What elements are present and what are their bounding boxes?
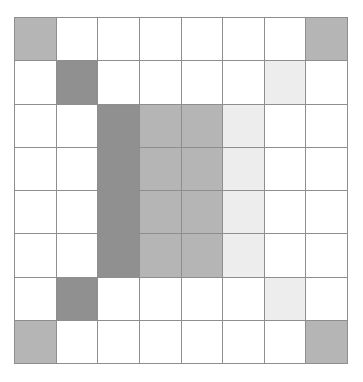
heatmap-cell [98,105,139,147]
heatmap-cell [182,321,223,363]
heatmap-cell [57,18,98,60]
heatmap-cell [265,278,306,320]
heatmap-cell [223,61,264,103]
heatmap-cell [182,191,223,233]
heatmap-cell [265,18,306,60]
heatmap-cell [98,61,139,103]
heatmap-cell [15,61,56,103]
heatmap-cell [265,191,306,233]
heatmap-cell [15,148,56,190]
heatmap-cell [306,61,347,103]
heatmap-cell [265,61,306,103]
heatmap-cell [306,234,347,276]
heatmap-cell [306,18,347,60]
heatmap-cell [306,148,347,190]
heatmap-grid [14,17,348,364]
heatmap-cell [98,191,139,233]
heatmap-cell [57,148,98,190]
heatmap-cell [306,191,347,233]
heatmap-cell [223,18,264,60]
heatmap-cell [57,234,98,276]
heatmap-cell [57,61,98,103]
heatmap-cell [182,105,223,147]
heatmap-cell [223,278,264,320]
heatmap-cell [182,61,223,103]
heatmap-cell [140,278,181,320]
heatmap-cell [57,105,98,147]
heatmap-cell [265,234,306,276]
heatmap-cell [265,148,306,190]
heatmap-cell [265,105,306,147]
heatmap-cell [98,148,139,190]
heatmap-cell [223,105,264,147]
heatmap-cell [223,148,264,190]
heatmap-cell [306,321,347,363]
heatmap-cell [15,105,56,147]
heatmap-cell [98,321,139,363]
heatmap-cell [98,234,139,276]
heatmap-cell [223,321,264,363]
heatmap-cell [140,148,181,190]
heatmap-cell [306,278,347,320]
heatmap-cell [182,234,223,276]
heatmap-cell [182,278,223,320]
heatmap-cell [140,61,181,103]
heatmap-cell [15,191,56,233]
heatmap-cell [57,191,98,233]
heatmap-cell [140,18,181,60]
heatmap-cell [15,18,56,60]
heatmap-cell [140,105,181,147]
heatmap-cell [182,18,223,60]
heatmap-cell [223,234,264,276]
heatmap-cell [98,18,139,60]
heatmap-cell [98,278,139,320]
heatmap-cell [15,278,56,320]
heatmap-cell [15,321,56,363]
heatmap-figure [0,0,363,382]
heatmap-cell [140,321,181,363]
heatmap-cell [140,234,181,276]
heatmap-cell [182,148,223,190]
heatmap-cell [265,321,306,363]
heatmap-cell [57,278,98,320]
heatmap-cell [15,234,56,276]
heatmap-cell [57,321,98,363]
heatmap-cell [223,191,264,233]
heatmap-cell [140,191,181,233]
heatmap-cell [306,105,347,147]
